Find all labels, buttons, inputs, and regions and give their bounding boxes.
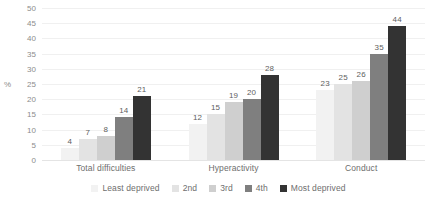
bar-slot: 23 — [316, 8, 334, 160]
legend-swatch-icon — [172, 185, 179, 192]
gridline — [42, 160, 425, 161]
y-axis-tick-label: 10 — [27, 125, 36, 134]
bar-slot: 35 — [370, 8, 388, 160]
bar-group-bars: 1215192028 — [170, 8, 298, 160]
bar-value-label: 21 — [137, 85, 146, 94]
bar-value-label: 15 — [211, 103, 220, 112]
bar-slot: 19 — [225, 8, 243, 160]
bar[interactable] — [261, 75, 279, 160]
legend-label: 3rd — [220, 183, 233, 193]
y-axis: 504540353025%20151050 — [0, 8, 40, 160]
legend-item[interactable]: 4th — [245, 183, 268, 193]
category-label: Hyperactivity — [170, 163, 298, 173]
bar-value-label: 4 — [68, 137, 73, 146]
bar-value-label: 23 — [321, 79, 330, 88]
bar-group: 1215192028 — [170, 8, 298, 160]
y-axis-tick-label: 5 — [31, 140, 36, 149]
bar[interactable] — [133, 96, 151, 160]
legend-swatch-icon — [91, 185, 98, 192]
legend: Least deprived2nd3rd4thMost deprived — [0, 183, 437, 193]
category-label: Conduct — [297, 163, 425, 173]
legend-item[interactable]: 2nd — [172, 183, 197, 193]
y-axis-tick-label: 45 — [27, 19, 36, 28]
bar-value-label: 14 — [119, 106, 128, 115]
y-axis-tick-label: 40 — [27, 34, 36, 43]
bar[interactable] — [316, 90, 334, 160]
legend-item[interactable]: Most deprived — [280, 183, 346, 193]
bar-slot: 4 — [61, 8, 79, 160]
category-label: Total difficulties — [42, 163, 170, 173]
legend-swatch-icon — [209, 185, 216, 192]
y-axis-tick-label: 0 — [31, 156, 36, 165]
bar-value-label: 12 — [193, 113, 202, 122]
bar-slot: 15 — [207, 8, 225, 160]
y-axis-tick-label: 50 — [27, 4, 36, 13]
legend-label: Most deprived — [291, 183, 346, 193]
bar-groups: 478142112151920282325263544 — [42, 8, 425, 160]
bar-chart: 504540353025%20151050 478142112151920282… — [0, 0, 437, 206]
legend-swatch-icon — [280, 185, 287, 192]
bar-group-bars: 2325263544 — [297, 8, 425, 160]
bar-value-label: 26 — [357, 70, 366, 79]
y-axis-unit-label: % — [4, 80, 11, 89]
bar-slot: 12 — [189, 8, 207, 160]
bar-slot: 25 — [334, 8, 352, 160]
bar-slot: 20 — [243, 8, 261, 160]
category-axis-labels: Total difficultiesHyperactivityConduct — [42, 163, 425, 173]
bar-slot: 14 — [115, 8, 133, 160]
legend-swatch-icon — [245, 185, 252, 192]
bar[interactable] — [115, 117, 133, 160]
bar-group: 2325263544 — [297, 8, 425, 160]
legend-label: 4th — [256, 183, 268, 193]
bar[interactable] — [207, 114, 225, 160]
bar[interactable] — [388, 26, 406, 160]
bar-slot: 44 — [388, 8, 406, 160]
bar[interactable] — [334, 84, 352, 160]
bar-value-label: 20 — [247, 88, 256, 97]
y-axis-tick-label: 30 — [27, 64, 36, 73]
bar-value-label: 7 — [86, 128, 91, 137]
bar[interactable] — [97, 136, 115, 160]
bar-value-label: 28 — [265, 64, 274, 73]
bar-slot: 21 — [133, 8, 151, 160]
bar[interactable] — [189, 124, 207, 160]
bar-value-label: 44 — [393, 15, 402, 24]
bar[interactable] — [61, 148, 79, 160]
bar[interactable] — [352, 81, 370, 160]
legend-label: 2nd — [183, 183, 197, 193]
bar[interactable] — [79, 139, 97, 160]
bar[interactable] — [243, 99, 261, 160]
legend-item[interactable]: Least deprived — [91, 183, 159, 193]
y-axis-tick-label: 20 — [27, 95, 36, 104]
bar[interactable] — [370, 54, 388, 160]
legend-label: Least deprived — [102, 183, 159, 193]
bar-group-bars: 4781421 — [42, 8, 170, 160]
bar[interactable] — [225, 102, 243, 160]
y-axis-tick-label: 25 — [27, 80, 36, 89]
bar-slot: 26 — [352, 8, 370, 160]
bar-group: 4781421 — [42, 8, 170, 160]
legend-item[interactable]: 3rd — [209, 183, 233, 193]
bar-value-label: 19 — [229, 91, 238, 100]
bar-slot: 28 — [261, 8, 279, 160]
y-axis-tick-label: 35 — [27, 49, 36, 58]
bar-value-label: 35 — [375, 43, 384, 52]
bar-value-label: 8 — [104, 125, 109, 134]
bar-slot: 7 — [79, 8, 97, 160]
bar-slot: 8 — [97, 8, 115, 160]
bar-value-label: 25 — [339, 73, 348, 82]
y-axis-tick-label: 15 — [27, 110, 36, 119]
